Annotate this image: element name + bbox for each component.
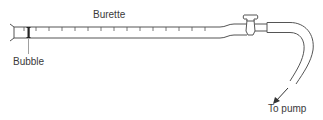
outlet-stem <box>255 23 267 33</box>
bubble <box>27 27 31 38</box>
tubing <box>267 23 313 85</box>
burette-open-end <box>10 24 14 41</box>
burette-apparatus-drawing <box>0 0 323 120</box>
bubble-label: Bubble <box>13 57 44 67</box>
burette-label: Burette <box>93 10 125 20</box>
arrow-to-pump-icon <box>273 88 288 104</box>
graduation-marks <box>24 27 205 31</box>
stopcock <box>243 15 258 35</box>
to-pump-label: To pump <box>268 104 306 114</box>
burette-diagram: Burette Bubble To pump <box>0 0 323 120</box>
